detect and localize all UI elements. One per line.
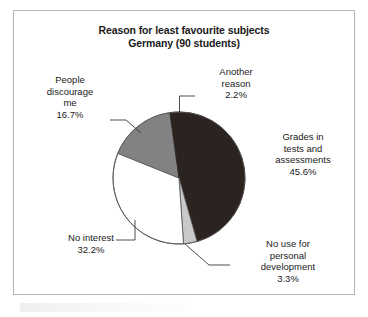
leader-line-another-reason	[180, 96, 196, 114]
pie-label-grades: Grades in tests and assessments 45.6%	[255, 131, 351, 177]
pie-label-no-interest: No interest 32.2%	[46, 232, 136, 255]
pie-label-people-discourage: People discourage me 16.7%	[28, 74, 112, 120]
pie-label-no-use: No use for personal development 3.3%	[236, 238, 340, 284]
cropped-text-artifact	[20, 303, 190, 312]
pie-chart-figure: Reason for least favourite subjects Germ…	[0, 0, 368, 317]
leader-line-no-use	[185, 244, 230, 265]
pie-label-another-reason: Another reason 2.2%	[198, 66, 274, 101]
